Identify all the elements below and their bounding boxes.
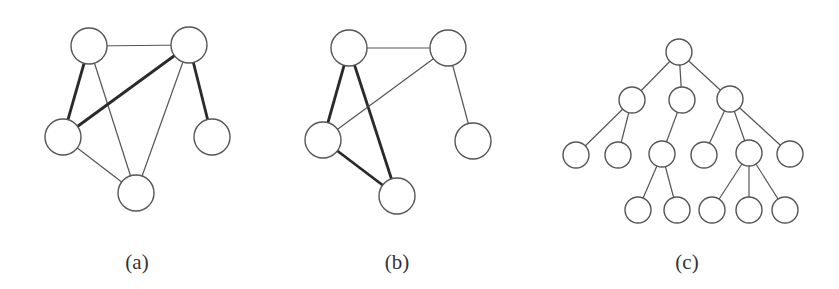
node-c2	[664, 197, 690, 223]
node-a2	[669, 87, 695, 113]
node-b	[379, 178, 415, 214]
node-root	[666, 39, 692, 65]
caption-b: (b)	[385, 250, 410, 275]
node-tl	[331, 30, 367, 66]
panel-b	[305, 30, 491, 214]
node-b6	[777, 141, 803, 167]
node-c3	[699, 197, 725, 223]
edge-tl-b	[349, 48, 397, 196]
node-l	[45, 119, 81, 155]
node-c4	[736, 197, 762, 223]
node-r	[194, 119, 230, 155]
node-c5	[772, 197, 798, 223]
panel-c	[563, 39, 803, 223]
node-b5	[736, 140, 762, 166]
node-l	[305, 122, 341, 158]
node-r	[455, 123, 491, 159]
caption-a: (a)	[125, 250, 148, 275]
node-b4	[691, 142, 717, 168]
panel-a	[45, 27, 230, 211]
node-b	[118, 175, 154, 211]
edge-tl-b	[89, 46, 136, 193]
node-b3	[649, 141, 675, 167]
node-c1	[625, 197, 651, 223]
node-a1	[619, 87, 645, 113]
node-tr	[171, 27, 207, 63]
caption-c: (c)	[675, 250, 698, 275]
node-tr	[430, 30, 466, 66]
graph-figure	[0, 0, 839, 289]
node-a3	[717, 86, 743, 112]
node-b1	[563, 142, 589, 168]
node-tl	[71, 28, 107, 64]
edge-tr-b	[136, 45, 189, 193]
node-b2	[605, 142, 631, 168]
